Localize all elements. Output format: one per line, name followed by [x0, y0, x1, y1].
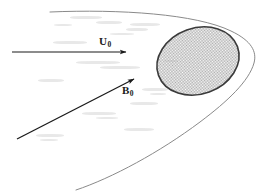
flow-velocity-subscript: 0 — [107, 40, 111, 49]
magnetic-field-subscript: 0 — [130, 89, 134, 98]
magnetic-field-symbol: B — [122, 84, 130, 96]
flow-velocity-label: U0 — [99, 36, 111, 47]
field-arrow — [17, 79, 134, 139]
flow-velocity-symbol: U — [99, 35, 107, 47]
magnetic-field-label: B0 — [122, 85, 134, 96]
bow-shock-figure: U0 B0 — [0, 0, 262, 192]
